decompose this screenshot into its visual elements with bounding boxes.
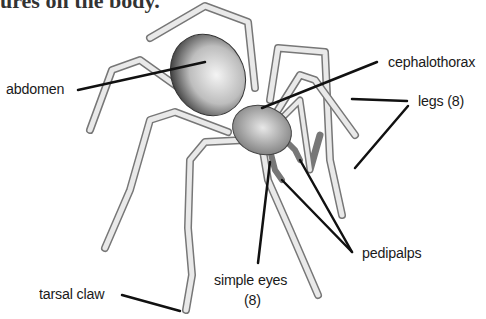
label-legs: legs (8) — [418, 92, 464, 110]
label-abdomen: abdomen — [6, 80, 64, 98]
label-simple-eyes-count: (8) — [244, 291, 261, 309]
label-pedipalps: pedipalps — [362, 244, 421, 262]
label-cephalothorax: cephalothorax — [388, 53, 475, 71]
label-simple-eyes: simple eyes — [214, 271, 287, 289]
spider-anatomy-diagram: ures on the body. — [0, 0, 486, 319]
label-tarsal-claw: tarsal claw — [39, 285, 104, 303]
